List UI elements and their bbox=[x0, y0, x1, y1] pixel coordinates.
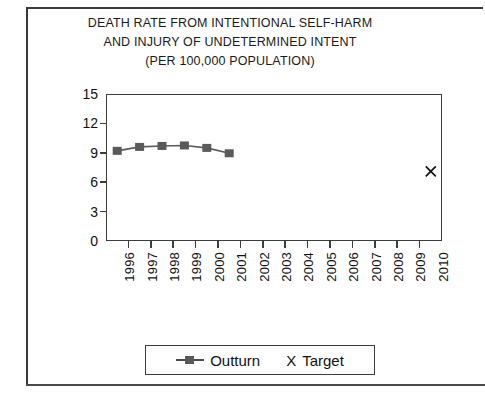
y-axis-tick-label: 3 bbox=[64, 205, 98, 219]
legend-item-target[interactable]: X Target bbox=[286, 352, 344, 369]
x-axis-tick-label: 2000 bbox=[213, 252, 226, 282]
legend-label-outturn: Outturn bbox=[210, 352, 260, 369]
x-axis-tick-label: 1999 bbox=[190, 252, 203, 282]
x-axis-tick-label: 2009 bbox=[414, 252, 427, 282]
series-layer bbox=[106, 94, 442, 241]
y-axis: 03691215 bbox=[60, 0, 98, 405]
x-axis-tick-mark bbox=[284, 241, 286, 248]
x-axis-tick-mark bbox=[307, 241, 309, 248]
line-marker-icon bbox=[176, 354, 204, 366]
data-point-marker bbox=[225, 149, 234, 157]
x-axis-tick-mark bbox=[195, 241, 197, 248]
x-axis-tick-label: 2003 bbox=[280, 252, 293, 282]
legend-label-target: Target bbox=[302, 352, 344, 369]
x-axis-tick-mark bbox=[217, 241, 219, 248]
x-axis-tick-mark bbox=[396, 241, 398, 248]
x-axis-tick-mark bbox=[374, 241, 376, 248]
cross-marker-icon: X bbox=[286, 353, 296, 368]
chart-legend: Outturn X Target bbox=[145, 345, 375, 375]
legend-item-outturn[interactable]: Outturn bbox=[176, 352, 260, 369]
data-point-marker bbox=[202, 144, 211, 152]
x-axis-tick-mark bbox=[329, 241, 331, 248]
x-axis-tick-label: 1997 bbox=[146, 252, 159, 282]
y-axis-tick-label: 12 bbox=[64, 116, 98, 130]
y-axis-tick-mark bbox=[100, 181, 107, 183]
x-axis-tick-mark bbox=[262, 241, 264, 248]
x-axis-tick-label: 1998 bbox=[168, 252, 181, 282]
x-axis-tick-label: 2008 bbox=[392, 252, 405, 282]
x-axis-tick-mark bbox=[150, 241, 152, 248]
x-axis-tick-mark bbox=[419, 241, 421, 248]
x-axis-tick-mark bbox=[128, 241, 130, 248]
y-axis-tick-label: 9 bbox=[64, 146, 98, 160]
y-axis-tick-label: 6 bbox=[64, 175, 98, 189]
data-point-marker bbox=[113, 147, 122, 155]
data-point-marker bbox=[135, 143, 144, 151]
x-axis-tick-label: 2010 bbox=[437, 252, 450, 282]
y-axis-tick-mark bbox=[100, 123, 107, 125]
x-axis-tick-label: 2004 bbox=[302, 252, 315, 282]
x-axis-tick-label: 2002 bbox=[258, 252, 271, 282]
y-axis-tick-mark bbox=[100, 152, 107, 154]
x-axis-tick-label: 2005 bbox=[325, 252, 338, 282]
y-axis-tick-label: 0 bbox=[64, 234, 98, 248]
target-marker bbox=[426, 166, 436, 176]
x-axis-tick-mark bbox=[172, 241, 174, 248]
x-axis-tick-label: 2001 bbox=[235, 252, 248, 282]
y-axis-tick-label: 15 bbox=[64, 87, 98, 101]
x-axis-tick-mark bbox=[352, 241, 354, 248]
x-axis-tick-label: 2006 bbox=[347, 252, 360, 282]
data-point-marker bbox=[180, 141, 189, 149]
x-axis-tick-label: 2007 bbox=[370, 252, 383, 282]
series-line-outturn bbox=[117, 145, 229, 153]
data-point-marker bbox=[158, 142, 167, 150]
x-axis-tick-mark bbox=[240, 241, 242, 248]
x-axis-tick-label: 1996 bbox=[123, 252, 136, 282]
y-axis-tick-mark bbox=[100, 211, 107, 213]
